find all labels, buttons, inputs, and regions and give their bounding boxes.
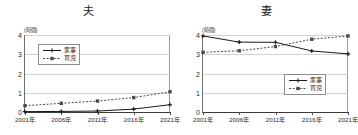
legend-item-wife-家事: 家事 bbox=[288, 77, 322, 84]
data-point-husband-家事-2006年 bbox=[59, 109, 63, 113]
legend-label-husband-家事: 家事 bbox=[64, 47, 76, 54]
x-tick-label-husband-3: 2016年 bbox=[124, 115, 144, 124]
data-point-wife-家事-2006年 bbox=[237, 40, 241, 44]
data-point-wife-育児-2016年 bbox=[310, 38, 313, 41]
data-point-wife-家事-2001年 bbox=[201, 34, 205, 38]
data-point-husband-家事-2001年 bbox=[23, 110, 27, 114]
series-line-husband-育児 bbox=[25, 92, 170, 106]
data-point-husband-育児-2001年 bbox=[23, 104, 26, 107]
x-tick-label-husband-4: 2021年 bbox=[160, 115, 180, 124]
data-point-husband-家事-2011年 bbox=[95, 109, 99, 113]
x-tick-label-wife-4: 2021年 bbox=[338, 115, 358, 124]
data-point-husband-育児-2016年 bbox=[132, 96, 135, 99]
legend-husband: 家事育児 bbox=[38, 44, 80, 65]
legend-item-husband-家事: 家事 bbox=[42, 47, 76, 54]
y-tick-label-wife-2: 2 bbox=[196, 70, 200, 77]
x-tick-label-wife-2: 2011年 bbox=[266, 115, 285, 124]
y-tick-label-husband-3: 3 bbox=[18, 51, 22, 58]
data-point-wife-育児-2011年 bbox=[274, 45, 277, 48]
legend-label-wife-家事: 家事 bbox=[310, 77, 322, 84]
chart-panel-wife: 妻 (時間) 012342001年2006年2011年2016年2021年 家事… bbox=[178, 0, 356, 135]
y-axis-unit-label-husband: (時間) bbox=[24, 26, 37, 33]
legend-swatch-wife-育児 bbox=[288, 85, 308, 92]
data-point-wife-育児-2006年 bbox=[238, 49, 241, 52]
y-axis-unit-label-wife: (時間) bbox=[202, 26, 215, 33]
data-point-husband-家事-2021年 bbox=[168, 103, 172, 107]
data-point-husband-育児-2021年 bbox=[168, 90, 171, 93]
y-tick-label-husband-2: 2 bbox=[18, 70, 22, 77]
legend-label-wife-育児: 育児 bbox=[310, 85, 322, 92]
legend-label-husband-育児: 育児 bbox=[64, 55, 76, 62]
data-point-wife-家事-2011年 bbox=[273, 40, 277, 44]
legend-swatch-wife-家事 bbox=[288, 77, 308, 84]
legend-item-wife-育児: 育児 bbox=[288, 85, 322, 92]
data-point-husband-育児-2011年 bbox=[96, 99, 99, 102]
x-tick-label-husband-2: 2011年 bbox=[88, 115, 107, 124]
y-tick-label-wife-3: 3 bbox=[196, 51, 200, 58]
data-point-wife-家事-2021年 bbox=[346, 52, 350, 56]
legend-item-husband-育児: 育児 bbox=[42, 55, 76, 62]
legend-wife: 家事育児 bbox=[284, 74, 326, 95]
x-tick-label-wife-0: 2001年 bbox=[193, 115, 213, 124]
chart-panel-husband: 夫 (時間) 012342001年2006年2011年2016年2021年 家事… bbox=[0, 0, 178, 135]
legend-swatch-husband-家事 bbox=[42, 47, 62, 54]
y-tick-label-husband-4: 4 bbox=[18, 32, 22, 39]
plot-area-wife: 012342001年2006年2011年2016年2021年 bbox=[202, 35, 348, 113]
x-tick-label-husband-0: 2001年 bbox=[15, 115, 35, 124]
data-point-wife-育児-2021年 bbox=[346, 34, 349, 37]
data-point-husband-育児-2006年 bbox=[60, 102, 63, 105]
data-point-wife-家事-2016年 bbox=[310, 49, 314, 53]
chart-title-wife: 妻 bbox=[178, 2, 356, 18]
chart-title-husband: 夫 bbox=[0, 2, 178, 18]
y-tick-label-wife-4: 4 bbox=[196, 32, 200, 39]
data-point-husband-家事-2016年 bbox=[132, 107, 136, 111]
legend-swatch-husband-育児 bbox=[42, 55, 62, 62]
y-tick-label-wife-1: 1 bbox=[196, 89, 200, 96]
y-tick-label-husband-1: 1 bbox=[18, 89, 22, 96]
data-point-wife-育児-2001年 bbox=[201, 51, 204, 54]
x-tick-label-wife-1: 2006年 bbox=[229, 115, 249, 124]
x-tick-label-husband-1: 2006年 bbox=[51, 115, 71, 124]
series-layer-wife bbox=[203, 35, 348, 112]
x-tick-label-wife-3: 2016年 bbox=[302, 115, 322, 124]
